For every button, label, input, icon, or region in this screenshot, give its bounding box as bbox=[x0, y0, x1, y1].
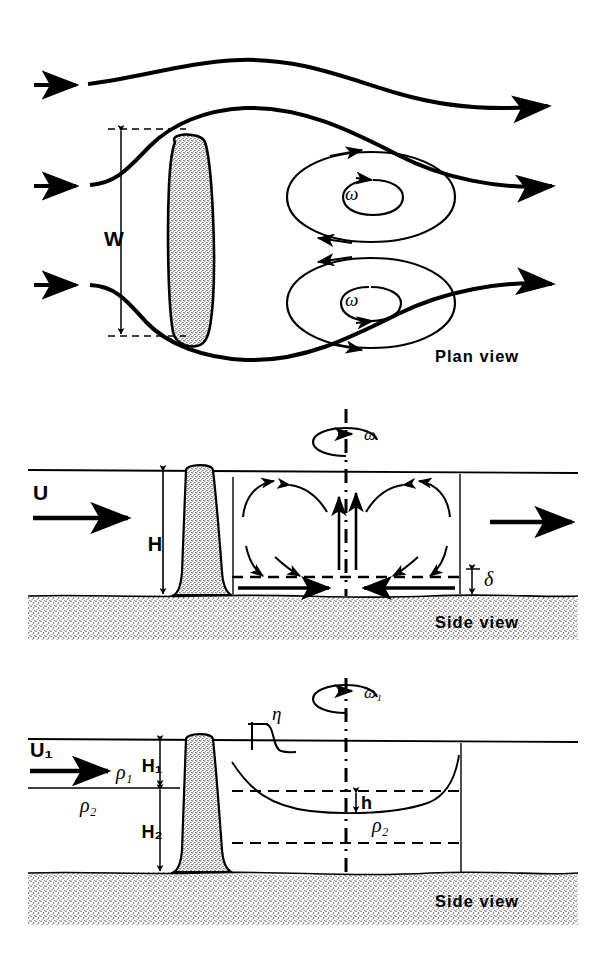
figure-container: W ω ω Plan view bbox=[0, 0, 590, 961]
density-lower-wake-label: ρ₂ bbox=[371, 814, 389, 837]
plan-view-caption: Plan view bbox=[435, 347, 519, 365]
vortex-bottom-omega-label: ω bbox=[345, 289, 358, 310]
interface-displacement-label: h bbox=[361, 793, 372, 813]
upper-depth-label: H₁ bbox=[142, 756, 162, 776]
velocity-label-mid: U bbox=[33, 481, 48, 504]
side-view-caption-bot: Side view bbox=[435, 892, 519, 910]
side-view-caption-mid: Side view bbox=[435, 613, 519, 631]
width-label: W bbox=[104, 227, 124, 250]
vortex-top-omega-label: ω bbox=[345, 183, 358, 204]
density-lower-label: ρ₂ bbox=[79, 794, 97, 817]
island-obstacle-plan bbox=[168, 134, 214, 346]
lower-depth-label: H₂ bbox=[142, 822, 163, 842]
rotation-omega-label-mid: ω bbox=[364, 425, 376, 444]
surface-elevation-label: η bbox=[272, 703, 281, 724]
diagram-svg: W ω ω Plan view bbox=[0, 0, 590, 961]
boundary-layer-label-mid: δ bbox=[484, 568, 494, 590]
figure-background bbox=[0, 0, 590, 961]
height-label-mid: H bbox=[148, 533, 162, 555]
density-upper-label: ρ₁ bbox=[115, 761, 133, 784]
velocity-label-bot: U₁ bbox=[30, 739, 53, 761]
rotation-omega1-label: ω₁ bbox=[364, 683, 382, 702]
